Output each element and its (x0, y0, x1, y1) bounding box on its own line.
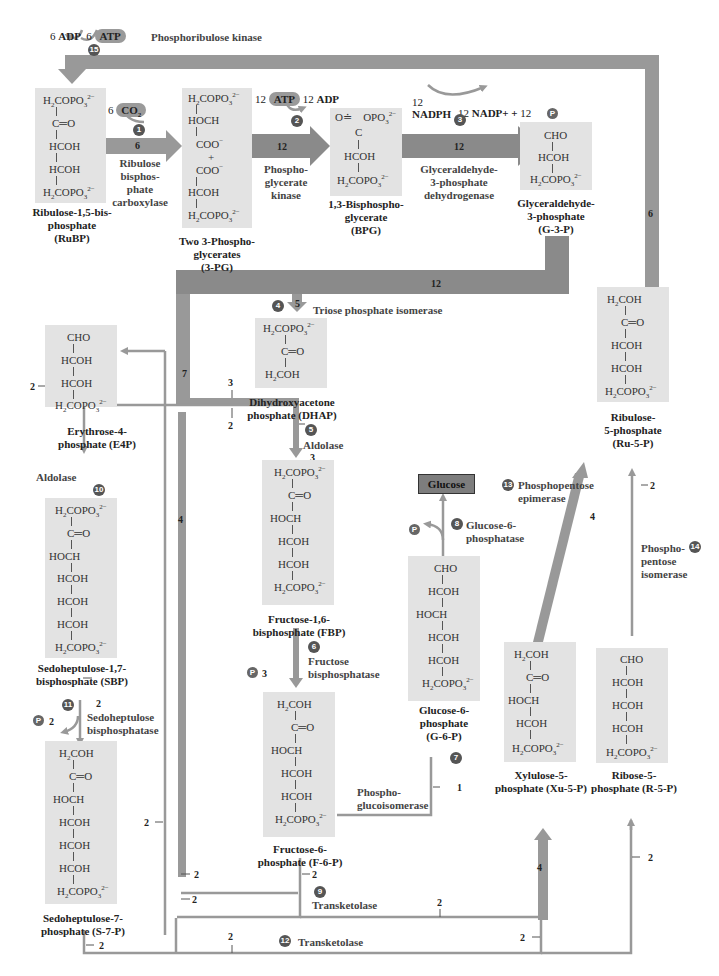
label-bpg: 1,3-Bisphospho- glycerate (BPG) (318, 198, 414, 237)
bond (292, 479, 293, 488)
step-2-marker: 2 (291, 115, 303, 127)
molecule-e4p: CHO HCOH HCOH H2COPO32− (45, 325, 117, 407)
enz-line: glucoisomerase (357, 799, 428, 812)
r5p-line2: HCOH (612, 676, 643, 689)
sbp-line1: H2COPO32− (55, 504, 107, 517)
r5p-line1: CHO (620, 653, 643, 666)
label-line: (G-6-P) (404, 730, 484, 743)
phosphate-icon: P (247, 667, 258, 678)
bond (71, 608, 72, 617)
dhap-line3: H2COH (265, 368, 300, 381)
bond (71, 563, 72, 572)
bond (196, 127, 197, 136)
bond (625, 306, 626, 315)
step-5-marker: 5 (305, 424, 317, 436)
bond (196, 105, 197, 114)
enz-line: isomerase (641, 568, 687, 581)
molecule-f6p: H2COH C═O HOCH HCOH HCOH H2COPO32− (263, 692, 335, 837)
s7p-line5: HCOH (59, 839, 90, 852)
flux-2-t5: 2 (228, 931, 233, 942)
flux-2-t4: 2 (437, 897, 442, 908)
enzyme-6-label: Fructose bisphosphatase (308, 655, 380, 681)
bond (73, 783, 74, 792)
label-line: Ribulose-1,5-bis- (22, 206, 122, 219)
flux-4-diag: 4 (590, 511, 595, 522)
sbp-line6: HCOH (57, 618, 88, 631)
fbp-line2: C═O (288, 489, 311, 502)
label-line: bisphosphate (SBP) (30, 675, 134, 688)
enzyme-10-label: Aldolase (36, 471, 76, 484)
bond (292, 548, 293, 557)
flux-2-r5p: 2 (648, 852, 653, 863)
enzyme-3-label: Glyceraldehyde- 3-phosphate dehydrogenas… (413, 163, 505, 202)
label-line: Fructose-6- (248, 843, 352, 856)
ru5p-line3: HCOH (611, 339, 642, 352)
bond (295, 780, 296, 789)
step-1-marker: 1 (133, 124, 145, 136)
nadph-label: NADPH (412, 108, 451, 120)
label-line: phosphate (R-5-P) (589, 782, 679, 795)
label-dhap: Dihydroxyacetone phosphate (DHAP) (240, 396, 344, 422)
atp-oval: ATP (269, 92, 300, 106)
enz-line: Phosphopentose (518, 479, 594, 492)
label-line: 1,3-Bisphospho- (318, 198, 414, 211)
phosphate-icon: P (33, 715, 44, 726)
label-line: Erythrose-4- (52, 425, 142, 438)
label-fbp: Fructose-1,6- bisphosphate (FBP) (244, 613, 354, 639)
f6p-line6: H2COPO32− (275, 813, 327, 826)
f6p-line2: C═O (291, 721, 314, 734)
pi-count: 12 (520, 107, 531, 119)
bond (292, 525, 293, 534)
enz-line: 3-phosphate (413, 176, 505, 189)
cofactor-step2: 12 ATP 12 ADP (255, 92, 339, 106)
bond (626, 712, 627, 721)
s7p-line6: HCOH (59, 862, 90, 875)
cofactor-nadp: 12 NADP+ + 12 (458, 107, 531, 119)
label-line: Glucose-6- (404, 704, 484, 717)
step-7-marker: 7 (450, 752, 462, 764)
enzyme-13-label: Phosphopentose epimerase (518, 479, 594, 505)
label-line: Ribose-5- (589, 769, 679, 782)
molecule-bpg: O≐ OPO32− C HCOH H2COPO32− (330, 108, 402, 196)
label-f6p: Fructose-6- phosphate (F-6-P) (248, 843, 352, 869)
enz-line: Sedoheptulose (87, 711, 159, 724)
label-line: (RuBP) (22, 232, 122, 245)
label-line: Two 3-Phospho- (170, 235, 264, 248)
phosphate-icon: P (547, 108, 558, 119)
sbp-line4: HCOH (57, 572, 88, 585)
label-g3p: Glyceraldehyde- 3-phosphate (G-3-P) (506, 197, 606, 236)
label-line: phosphate (F-6-P) (248, 856, 352, 869)
molecule-r5p: CHO HCOH HCOH HCOH H2COPO32− (596, 648, 668, 763)
step-12-marker: 12 (279, 935, 291, 947)
cofactor-nadph: 12 NADPH (412, 96, 451, 120)
flux-2-s7p: 2 (99, 940, 104, 951)
s7p-line2: C═O (69, 770, 92, 783)
enz-line: bisphosphatase (87, 724, 159, 737)
pg-line5: COO− (196, 164, 223, 177)
xu5p-line4: HCOH (516, 717, 547, 730)
fbp-line5: HCOH (278, 558, 309, 571)
enz-line: phate (110, 183, 170, 196)
rubp-line4: HCOH (49, 163, 80, 176)
flux-2-e4p-left: 2 (30, 381, 35, 392)
s7p-line1: H2COH (59, 747, 94, 760)
flux-12-c: 12 (431, 278, 441, 289)
xu5p-line1: H2COH (514, 648, 549, 661)
bond (73, 875, 74, 884)
g6p-line5: HCOH (428, 654, 459, 667)
label-rubp: Ribulose-1,5-bis- phosphate (RuBP) (22, 206, 122, 245)
bond (73, 367, 74, 376)
flux-2-e4p: 2 (228, 420, 233, 431)
enzyme-15-label: Phosphoribulose kinase (151, 31, 262, 44)
flux-3-dhap: 3 (228, 377, 233, 388)
rubp-line5: H2COPO32− (43, 186, 95, 199)
flux-4-lower: 4 (178, 514, 183, 525)
bond (196, 199, 197, 208)
adp-count: 12 (303, 93, 314, 105)
pg-line6: HCOH (188, 186, 219, 199)
enzyme-7-label: Phospho- glucoisomerase (357, 786, 428, 812)
step-3-marker: 3 (454, 114, 466, 126)
bond (626, 689, 627, 698)
s7p-line4: HCOH (59, 816, 90, 829)
step-15-marker: 15 (88, 44, 100, 56)
